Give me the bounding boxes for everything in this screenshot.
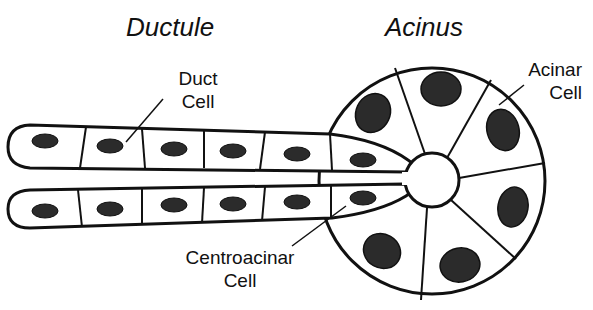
duct-cell-label-line2: Cell xyxy=(168,90,228,113)
acinar-cell-label-line1: Acinar xyxy=(510,58,582,81)
acinar-cell-label-line2: Cell xyxy=(510,81,582,104)
centroacinar-cell-label-line2: Cell xyxy=(180,269,300,292)
ductule-title: Ductule xyxy=(126,12,214,43)
centroacinar-cell-label-line1: Centroacinar xyxy=(180,246,300,269)
lumen-junction xyxy=(402,172,410,185)
acinar-nucleus xyxy=(421,72,461,106)
acinus-lumen xyxy=(405,153,459,207)
pancreas-acinus-diagram: Ductule Acinus Duct Cell Acinar Cell Cen… xyxy=(0,0,593,310)
acinar-cell-label: Acinar Cell xyxy=(510,58,582,104)
duct-cell-label: Duct Cell xyxy=(168,67,228,113)
centroacinar-cell-label: Centroacinar Cell xyxy=(180,246,300,292)
acinus-title: Acinus xyxy=(385,12,463,43)
duct-cell-label-line1: Duct xyxy=(168,67,228,90)
